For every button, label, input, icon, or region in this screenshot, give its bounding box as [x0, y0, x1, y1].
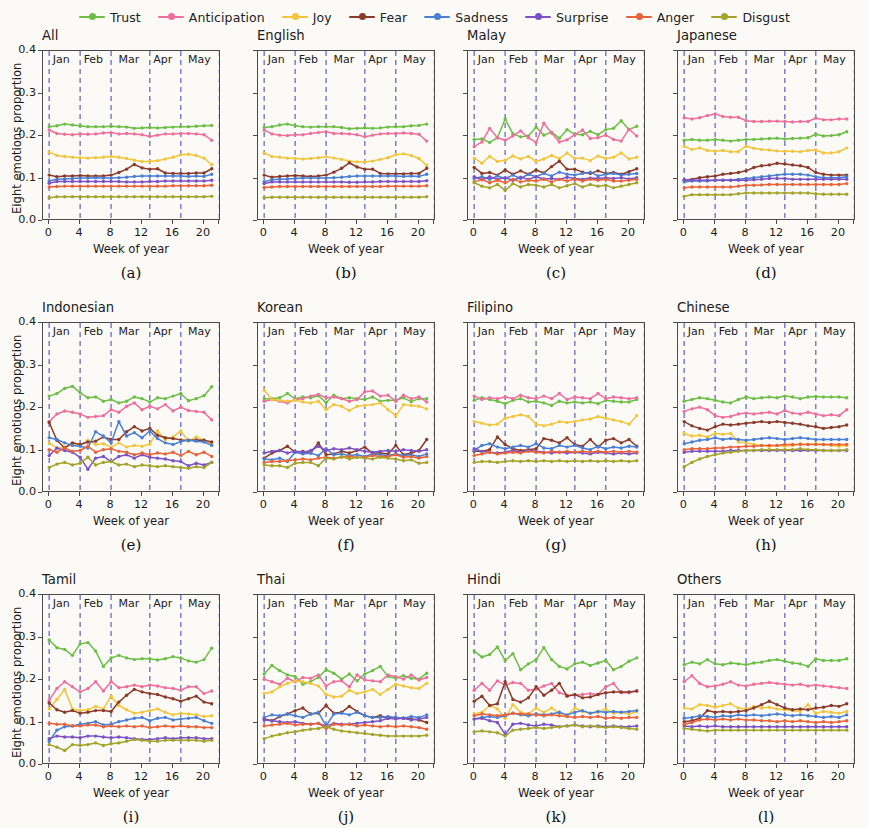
- x-axis-label: Week of year: [467, 242, 645, 256]
- x-tick-label: 0: [461, 498, 485, 511]
- data-point: [573, 711, 576, 714]
- data-point: [822, 728, 825, 731]
- data-point: [171, 465, 174, 468]
- data-point: [164, 657, 167, 660]
- data-point: [542, 714, 545, 717]
- data-point: [47, 421, 50, 424]
- data-point: [164, 695, 167, 698]
- x-tick-mark: [776, 764, 777, 768]
- legend-item-sadness[interactable]: Sadness: [424, 10, 508, 25]
- x-tick-mark: [418, 764, 419, 768]
- data-point: [737, 710, 740, 713]
- data-point: [148, 184, 151, 187]
- data-point: [558, 711, 561, 714]
- data-point: [775, 728, 778, 731]
- x-tick-mark: [473, 492, 474, 496]
- data-point: [278, 464, 281, 467]
- data-point: [179, 717, 182, 720]
- data-point: [363, 732, 366, 735]
- data-point: [317, 684, 320, 687]
- data-point: [682, 465, 685, 468]
- data-point: [830, 725, 833, 728]
- data-point: [117, 700, 120, 703]
- data-point: [148, 174, 151, 177]
- data-point: [324, 401, 327, 404]
- data-point: [202, 133, 205, 136]
- data-point: [348, 713, 351, 716]
- data-point: [293, 679, 296, 682]
- data-point: [612, 450, 615, 453]
- legend-item-fear[interactable]: Fear: [349, 10, 407, 25]
- data-point: [527, 662, 530, 665]
- data-point: [511, 681, 514, 684]
- y-tick-mark: [673, 407, 677, 408]
- data-point: [791, 178, 794, 181]
- data-point: [86, 456, 89, 459]
- data-point: [612, 445, 615, 448]
- data-point: [309, 682, 312, 685]
- data-point: [109, 173, 112, 176]
- data-point: [187, 725, 190, 728]
- data-point: [698, 405, 701, 408]
- data-point: [156, 451, 159, 454]
- data-point: [845, 408, 848, 411]
- data-point: [195, 154, 198, 157]
- data-point: [86, 125, 89, 128]
- data-point: [262, 463, 265, 466]
- data-point: [830, 704, 833, 707]
- data-point: [355, 724, 358, 727]
- data-point: [721, 416, 724, 419]
- data-point: [744, 445, 747, 448]
- data-point: [737, 116, 740, 119]
- data-point: [737, 171, 740, 174]
- data-point: [179, 184, 182, 187]
- data-point: [309, 401, 312, 404]
- data-point: [379, 394, 382, 397]
- data-point: [202, 195, 205, 198]
- data-point: [332, 723, 335, 726]
- data-point: [317, 176, 320, 179]
- data-point: [278, 685, 281, 688]
- data-point: [534, 460, 537, 463]
- x-tick-mark: [473, 220, 474, 224]
- data-point: [202, 156, 205, 159]
- data-point: [195, 725, 198, 728]
- data-point: [620, 690, 623, 693]
- data-point: [402, 180, 405, 183]
- legend-item-surprise[interactable]: Surprise: [525, 10, 609, 25]
- data-point: [386, 717, 389, 720]
- data-point: [340, 126, 343, 129]
- legend-item-disgust[interactable]: Disgust: [711, 10, 790, 25]
- y-tick-mark: [38, 50, 42, 51]
- legend-item-anticipation[interactable]: Anticipation: [158, 10, 265, 25]
- y-tick-mark: [673, 679, 677, 680]
- data-point: [612, 716, 615, 719]
- legend-item-trust[interactable]: Trust: [79, 10, 141, 25]
- legend-item-joy[interactable]: Joy: [282, 10, 332, 25]
- data-point: [589, 159, 592, 162]
- data-point: [262, 737, 265, 740]
- data-point: [417, 196, 420, 199]
- data-point: [78, 456, 81, 459]
- data-point: [125, 125, 128, 128]
- data-point: [109, 742, 112, 745]
- data-point: [760, 448, 763, 451]
- data-point: [620, 400, 623, 403]
- data-point: [262, 400, 265, 403]
- month-label-apr: Apr: [788, 597, 807, 610]
- data-point: [55, 154, 58, 157]
- data-point: [125, 180, 128, 183]
- legend-item-anger[interactable]: Anger: [626, 10, 695, 25]
- data-point: [94, 430, 97, 433]
- data-point: [324, 196, 327, 199]
- data-point: [627, 179, 630, 182]
- data-point: [164, 174, 167, 177]
- data-point: [117, 725, 120, 728]
- data-point: [210, 646, 213, 649]
- data-point: [164, 397, 167, 400]
- data-point: [604, 417, 607, 420]
- data-point: [752, 728, 755, 731]
- month-label-mar: Mar: [543, 53, 564, 66]
- y-tick-mark: [673, 93, 677, 94]
- data-point: [503, 680, 506, 683]
